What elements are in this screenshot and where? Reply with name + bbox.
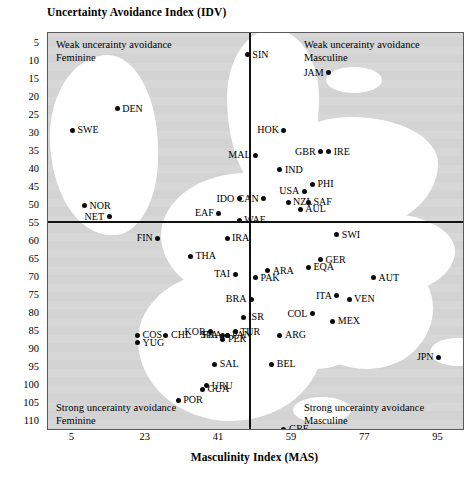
data-point-label: GUA (208, 384, 230, 394)
data-point-marker (237, 218, 242, 223)
data-point-label: SAL (220, 359, 239, 369)
data-point-label: SIN (252, 50, 268, 60)
data-point-label: MEX (338, 316, 360, 326)
data-point-marker (82, 203, 87, 208)
y-axis-tick-label: 25 (29, 110, 40, 121)
y-axis-tick-label: 5 (34, 38, 39, 49)
data-point-label: AUL (305, 204, 326, 214)
y-axis-tick-label: 90 (29, 344, 40, 355)
x-axis-tick-label: 95 (432, 432, 443, 443)
data-point-label: IRA (232, 233, 249, 243)
x-axis-tick-label: 59 (286, 432, 297, 443)
data-point-marker (347, 297, 352, 302)
y-axis-tick-label: 10 (29, 56, 40, 67)
data-point-marker (277, 167, 282, 172)
data-point-label: NOR (90, 201, 111, 211)
y-axis-tick-label: 110 (24, 416, 39, 427)
data-point-marker (225, 236, 230, 241)
data-point-label: IRE (334, 147, 350, 157)
y-axis-tick-label: 105 (23, 398, 39, 409)
y-axis-tick-label: 75 (29, 290, 40, 301)
data-point-marker (220, 337, 225, 342)
data-point-marker (326, 70, 331, 75)
data-point-marker (115, 106, 120, 111)
y-axis-tick-label: 40 (29, 164, 40, 175)
data-point-label: YUG (143, 338, 165, 348)
data-point-marker (155, 236, 160, 241)
data-point-marker (253, 153, 258, 158)
data-point-marker (70, 128, 75, 133)
data-point-label: WAF (244, 215, 265, 225)
data-point-marker (269, 362, 274, 367)
data-point-label: SWI (342, 230, 360, 240)
data-point-marker (298, 207, 303, 212)
x-axis-title: Masculinity Index (MAS) (47, 451, 462, 463)
data-point-label: KOR (185, 327, 206, 337)
data-point-label: USA (279, 186, 299, 196)
y-axis-tick-label: 50 (29, 200, 40, 211)
y-axis-tick-label: 65 (29, 254, 40, 265)
data-point-label: EQA (313, 262, 334, 272)
x-axis-tick-label: 23 (139, 432, 150, 443)
data-point-label: POR (183, 395, 202, 405)
data-point-label: VEN (354, 294, 375, 304)
data-point-marker (212, 362, 217, 367)
data-point-marker (216, 211, 221, 216)
x-axis: 52341597795 (47, 432, 462, 450)
data-point-marker (249, 297, 254, 302)
data-point-marker (334, 232, 339, 237)
data-point-label: PAK (261, 273, 280, 283)
y-axis-tick-label: 30 (29, 128, 40, 139)
x-axis-tick-label: 41 (213, 432, 224, 443)
data-point-marker (233, 272, 238, 277)
y-axis-tick-label: 20 (29, 92, 40, 103)
data-point-label: ITA (316, 291, 332, 301)
data-point-marker (176, 398, 181, 403)
data-point-label: SWE (77, 125, 98, 135)
data-point-label: EAF (195, 208, 214, 218)
y-axis-tick-label: 60 (29, 236, 40, 247)
y-axis: 5101520253035404550556065707580859095100… (0, 32, 45, 428)
data-point-label: BEL (277, 359, 296, 369)
y-axis-tick-label: 100 (23, 380, 39, 391)
data-point-marker (107, 214, 112, 219)
data-point-marker (371, 275, 376, 280)
y-axis-tick-label: 45 (29, 182, 40, 193)
data-point-label: FIN (137, 233, 153, 243)
data-point-marker (306, 265, 311, 270)
data-point-label: IND (285, 165, 303, 175)
data-point-label: COL (287, 309, 307, 319)
data-point-marker (286, 200, 291, 205)
y-axis-tick-label: 80 (29, 308, 40, 319)
data-point-marker (245, 52, 250, 57)
data-point-marker (436, 355, 441, 360)
data-point-marker (188, 254, 193, 259)
plot-area: Weak uncerainty avoidance Feminine Weak … (47, 32, 464, 430)
data-point-label: THA (195, 251, 216, 261)
data-point-marker (302, 189, 307, 194)
data-point-marker (310, 311, 315, 316)
data-point-marker (281, 128, 286, 133)
data-point-label: ARG (285, 330, 306, 340)
data-points-layer: SINJAMDENSWEHOKGBRIREMALINDCANUSAPHINZLS… (48, 33, 463, 429)
data-point-marker (135, 333, 140, 338)
data-point-marker (253, 275, 258, 280)
data-point-marker (261, 196, 266, 201)
data-point-marker (163, 333, 168, 338)
data-point-marker (277, 333, 282, 338)
data-point-label: GRE (289, 424, 309, 430)
data-point-label: ISR (248, 312, 264, 322)
data-point-label: MAL (228, 150, 250, 160)
data-point-label: TAI (214, 269, 230, 279)
data-point-marker (281, 427, 286, 431)
page-title: Uncertainty Avoidance Index (IDV) (47, 6, 226, 18)
x-axis-tick-label: 77 (359, 432, 370, 443)
data-point-label: PHI (317, 179, 333, 189)
data-point-marker (310, 182, 315, 187)
data-point-label: BRA (226, 294, 247, 304)
data-point-label: HOK (257, 125, 279, 135)
data-point-label: NET (85, 212, 104, 222)
data-point-label: DEN (122, 104, 143, 114)
data-point-marker (241, 315, 246, 320)
data-point-marker (237, 196, 242, 201)
